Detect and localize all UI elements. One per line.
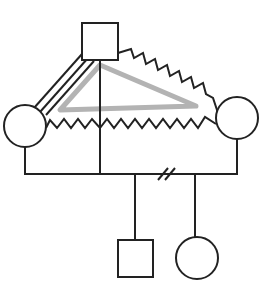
left-female-circle bbox=[4, 105, 46, 147]
conflict-zigzag-left-right bbox=[46, 117, 216, 128]
right-female-circle bbox=[216, 97, 258, 139]
genogram-diagram bbox=[0, 0, 265, 283]
top-male-square bbox=[82, 23, 118, 60]
child-male-square bbox=[118, 240, 153, 277]
child-female-circle bbox=[176, 237, 218, 279]
